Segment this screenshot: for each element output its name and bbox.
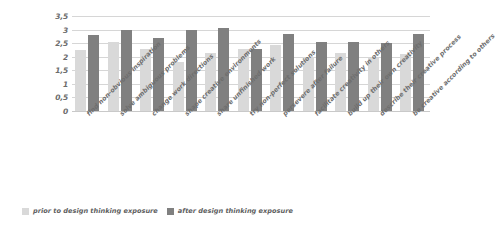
- y-axis-tick-label: 1,5: [55, 66, 68, 75]
- bar-prior: [75, 50, 86, 111]
- chart-title: [0, 0, 443, 2]
- y-axis-tick-label: 3,5: [55, 12, 68, 21]
- bar-prior: [108, 42, 119, 111]
- y-axis-tick-label: 1: [63, 79, 68, 88]
- legend-entry: after design thinking exposure: [167, 207, 293, 215]
- chart-legend: prior to design thinking exposureafter d…: [22, 207, 293, 215]
- legend-swatch-icon: [167, 208, 174, 215]
- legend-label: prior to design thinking exposure: [33, 207, 158, 215]
- legend-swatch-icon: [22, 208, 29, 215]
- y-axis: 00,511,522,533,5: [44, 16, 70, 111]
- plot-area: [72, 16, 430, 111]
- x-axis: find non-obvious inspirationsolve ambigu…: [72, 112, 430, 200]
- y-axis-tick-label: 2: [63, 52, 68, 61]
- y-axis-tick-label: 0,5: [55, 93, 68, 102]
- legend-entry: prior to design thinking exposure: [22, 207, 158, 215]
- y-axis-tick-label: 3: [63, 25, 68, 34]
- y-axis-tick-label: 2,5: [55, 39, 68, 48]
- y-axis-tick-label: 0: [63, 107, 68, 116]
- legend-label: after design thinking exposure: [178, 207, 293, 215]
